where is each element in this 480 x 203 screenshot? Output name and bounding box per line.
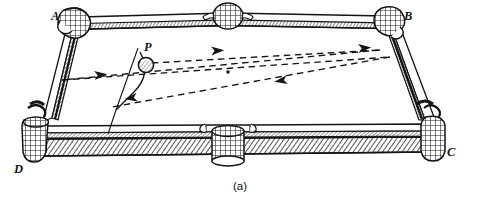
billiard-table-figure: A B C D P (a) <box>0 0 480 203</box>
ball-p <box>138 57 153 72</box>
label-corner-d: D <box>14 163 23 176</box>
pocket-corner-d <box>22 102 49 162</box>
label-corner-b: B <box>404 10 412 23</box>
figure-artwork <box>0 0 480 203</box>
figure-caption: (a) <box>0 181 480 193</box>
pocket-corner-a <box>58 8 91 38</box>
label-ball-p: P <box>144 41 152 54</box>
center-spot <box>227 71 230 74</box>
label-corner-c: C <box>447 146 455 159</box>
label-corner-a: A <box>51 10 59 23</box>
